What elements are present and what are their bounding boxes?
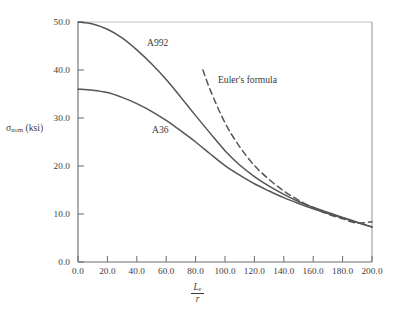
y-axis-ticks [78,22,84,262]
curve-a992 [78,22,372,227]
x-axis-label-fraction: Le r [191,283,203,304]
x-axis-label-numerator: Le [191,283,203,293]
y-axis-label-unit: (ksi) [23,122,43,133]
x-tick-label-200: 200.0 [352,266,392,276]
y-tick-label-20: 20.0 [36,161,70,171]
curve-euler-s-formula [203,70,372,223]
y-axis-label: σnom (ksi) [6,122,43,133]
axis-frame [78,22,372,262]
curve-a36 [78,89,372,227]
curve-label-eulers-formula: Euler's formula [218,74,277,85]
y-tick-label-40: 40.0 [36,65,70,75]
y-tick-label-10: 10.0 [36,209,70,219]
column-buckling-chart: 50.0 40.0 30.0 20.0 10.0 0.0 0.0 20.0 40… [0,0,395,311]
x-axis-label: Le r [0,283,395,304]
y-axis-label-subscript: nom [11,126,23,133]
y-tick-label-50: 50.0 [36,17,70,27]
curve-label-a36: A36 [152,124,169,135]
x-axis-label-denominator: r [191,295,203,305]
data-curves [78,22,372,227]
x-axis-ticks [78,256,372,262]
curve-label-a992: A992 [147,37,168,48]
x-axis-label-numerator-subscript: e [199,285,202,292]
